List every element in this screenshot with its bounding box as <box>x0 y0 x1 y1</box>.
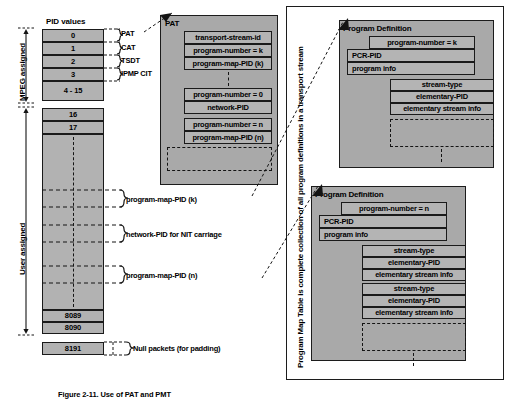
pid-annotation-null-packets: Null packets (for padding) <box>133 345 220 353</box>
pid-row-4-15: 4 - 15 <box>42 81 104 101</box>
pd1-field-program-number-k: program-number = k <box>369 36 475 49</box>
pd2-stream-1-elementary-stream-info: elementary stream info <box>362 307 466 319</box>
pid-annotation-program-map-pid-n: program-map-PID (n) <box>126 272 197 280</box>
pd2-field-program-info: program info <box>319 228 447 241</box>
program-definition-2-title: Program Definition <box>315 190 383 199</box>
pid-row-8191: 8191 <box>42 342 104 355</box>
program-definition-1-title: Program Definition <box>343 24 411 33</box>
pid-row-8090: 8090 <box>42 322 104 334</box>
pd1-ellipsis-dots <box>441 149 442 162</box>
pat-field-program-number-k: program-number = k <box>184 44 272 57</box>
pat-field-program-map-pid-n: program-map-PID (n) <box>184 131 272 144</box>
pid-row-1: 1 <box>42 42 104 55</box>
pid-annotation-cat: CAT <box>121 44 135 52</box>
pat-extension-dashed-region <box>167 147 272 171</box>
pat-field-program-number-n: program-number = n <box>184 118 272 131</box>
pid-annotation-tsdt: TSDT <box>121 57 140 65</box>
pid-row-8089: 8089 <box>42 310 104 322</box>
pd2-stream-1-elementary-pid: elementary-PID <box>362 295 466 307</box>
pd2-stream-0-stream-type: stream-type <box>362 245 466 257</box>
pd1-stream-0-elementary-pid: elementary-PID <box>390 91 494 103</box>
pd1-stream-0-stream-type: stream-type <box>390 79 494 91</box>
pid-row-0: 0 <box>42 29 104 42</box>
pd1-extension-dashed-region <box>390 119 494 147</box>
bracket-label-mpeg-assigned: MPEG assigned <box>18 43 27 101</box>
bracket-label-user-assigned: User assigned <box>18 223 27 275</box>
pd1-stream-0-elementary-stream-info: elementary stream info <box>390 103 494 115</box>
pd2-stream-0-elementary-stream-info: elementary stream info <box>362 269 466 281</box>
pid-annotation-network-pid-nit: network-PID for NIT carriage <box>126 231 222 239</box>
pd2-extension-dashed-region <box>362 323 466 351</box>
pid-annotation-program-map-pid-k: program-map-PID (k) <box>126 196 197 204</box>
pid-values-header: PID values <box>46 17 85 26</box>
pid-row-3: 3 <box>42 68 104 81</box>
pd2-stream-1-stream-type: stream-type <box>362 283 466 295</box>
pat-ellipsis-dots <box>228 72 229 86</box>
pd1-field-program-info: program info <box>347 62 475 75</box>
pid-user-range-dots <box>73 137 74 307</box>
figure-caption: Figure 2-11. Use of PAT and PMT <box>58 390 171 399</box>
pd2-stream-0-elementary-pid: elementary-PID <box>362 257 466 269</box>
pmt-vertical-note: Program Map Table is complete collection… <box>296 46 305 368</box>
pid-row-16: 16 <box>42 108 104 121</box>
pid-annotation-ipmp-cit: IPMP CIT <box>121 70 152 78</box>
pid-row-2: 2 <box>42 55 104 68</box>
pat-field-program-number-0: program-number = 0 <box>184 88 272 101</box>
pd2-field-program-number-n: program-number = n <box>341 202 447 215</box>
pat-field-network-pid: network-PID <box>184 101 272 114</box>
pat-field-program-map-pid-k: program-map-PID (k) <box>184 57 272 70</box>
pat-field-transport-stream-id: transport-stream-id <box>184 31 272 44</box>
pat-panel-title: PAT <box>165 19 179 28</box>
pd2-ellipsis-dots <box>413 353 414 366</box>
pd2-field-pcr-pid: PCR-PID <box>319 215 447 228</box>
pid-row-17: 17 <box>42 121 104 134</box>
pid-annotation-pat: PAT <box>121 30 134 38</box>
pd1-field-pcr-pid: PCR-PID <box>347 49 475 62</box>
